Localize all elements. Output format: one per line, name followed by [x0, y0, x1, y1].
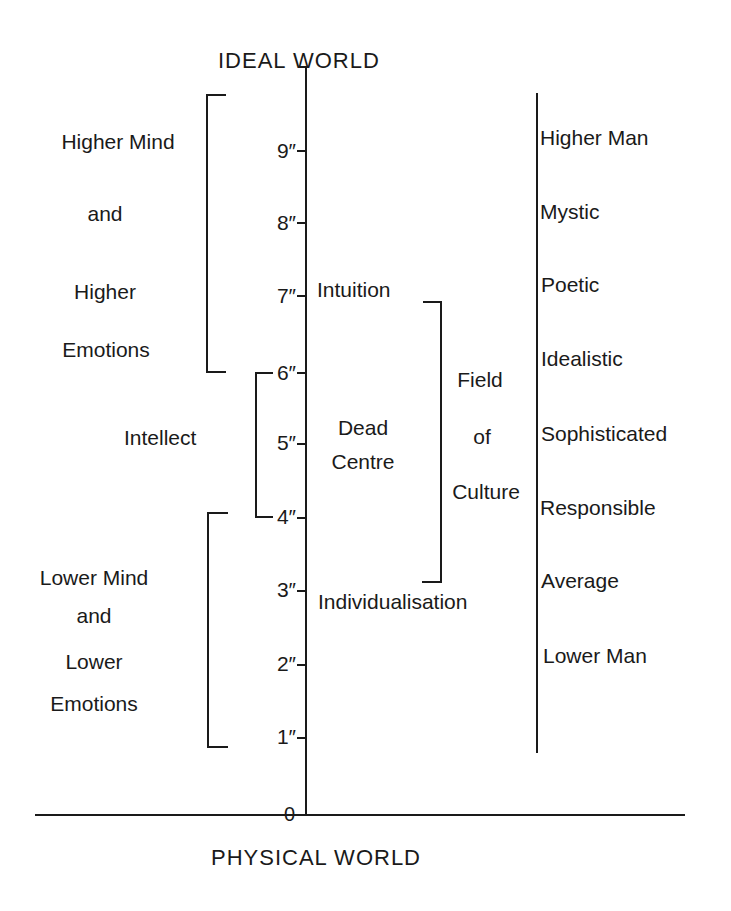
- tick-mark-8: [297, 222, 306, 224]
- lower-mind-line4: Emotions: [50, 692, 138, 716]
- higher-mind-line4: Emotions: [62, 338, 150, 362]
- intellect-label: Intellect: [124, 426, 196, 450]
- right-label-average: Average: [541, 569, 619, 593]
- tick-mark-3: [297, 590, 306, 592]
- physical-world-label: PHYSICAL WORLD: [211, 845, 421, 871]
- origin-label: 0: [284, 803, 295, 826]
- lower-mind-line2: and: [76, 604, 111, 628]
- field-of-culture-line3: Culture: [452, 480, 520, 504]
- tick-mark-2: [297, 664, 306, 666]
- right-label-poetic: Poetic: [541, 273, 599, 297]
- dead-centre-line1: Dead: [338, 416, 388, 440]
- higher-mind-line2: and: [87, 202, 122, 226]
- main-vertical-axis: [305, 66, 307, 816]
- field-of-culture-line1: Field: [457, 368, 503, 392]
- horizontal-baseline: [35, 814, 685, 816]
- tick-mark-5: [297, 443, 306, 445]
- right-label-responsible: Responsible: [540, 496, 656, 520]
- right-label-mystic: Mystic: [540, 200, 600, 224]
- tick-label-3: 3″: [266, 579, 296, 601]
- lower-mind-line3: Lower: [65, 650, 122, 674]
- tick-mark-9: [297, 150, 306, 152]
- tick-label-7: 7″: [266, 285, 296, 307]
- right-label-sophisticated: Sophisticated: [541, 422, 667, 446]
- higher-mind-line3: Higher: [74, 280, 136, 304]
- ideal-world-label: IDEAL WORLD: [218, 48, 380, 74]
- tick-mark-4: [297, 517, 306, 519]
- tick-label-8: 8″: [266, 212, 296, 234]
- dead-centre-line2: Centre: [331, 450, 394, 474]
- tick-mark-6: [297, 372, 306, 374]
- tick-label-2: 2″: [266, 653, 296, 675]
- tick-label-9: 9″: [266, 140, 296, 162]
- right-label-lower-man: Lower Man: [543, 644, 647, 668]
- individualisation-label: Individualisation: [318, 590, 467, 614]
- right-label-higher-man: Higher Man: [540, 126, 649, 150]
- higher-mind-line1: Higher Mind: [61, 130, 174, 154]
- tick-label-5: 5″: [266, 432, 296, 454]
- field-of-culture-line2: of: [473, 425, 491, 449]
- axis-top-hook: [298, 66, 306, 68]
- tick-label-1: 1″: [266, 726, 296, 748]
- lower-mind-line1: Lower Mind: [40, 566, 149, 590]
- right-label-idealistic: Idealistic: [541, 347, 623, 371]
- tick-mark-7: [297, 295, 306, 297]
- tick-mark-1: [297, 737, 306, 739]
- right-scale-line: [536, 93, 538, 753]
- intuition-label: Intuition: [317, 278, 391, 302]
